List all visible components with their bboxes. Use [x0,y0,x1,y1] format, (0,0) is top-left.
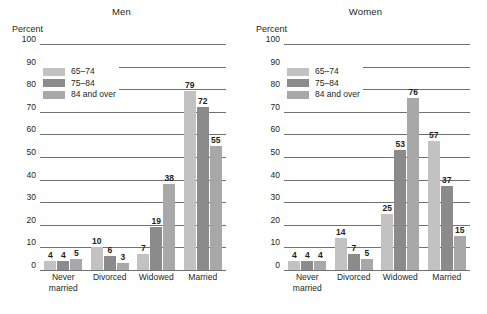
bar: 4 [301,261,313,270]
bar-slot: 76 [407,44,419,270]
legend-swatch [43,91,65,99]
y-tick-label-30: 30 [27,192,36,202]
bar: 14 [335,238,347,270]
y-tick-label-100: 100 [266,34,280,44]
legend-item: 75–84 [287,79,360,88]
legend-swatch [43,79,65,87]
legend: 65–7475–8484 and over [40,66,119,101]
legend-swatch [287,79,309,87]
bar-slot: 55 [210,44,222,270]
y-tick-label-70: 70 [27,102,36,112]
bar: 10 [91,247,103,270]
bar: 72 [197,107,209,270]
legend-item: 75–84 [43,79,116,88]
legend-label: 75–84 [315,79,339,88]
bar: 4 [44,261,56,270]
bar-value-label: 25 [383,204,392,213]
y-tick-label-80: 80 [271,79,280,89]
bar: 25 [381,214,393,271]
bar-slot: 72 [197,44,209,270]
bar-value-label: 19 [152,217,161,226]
bar: 3 [117,263,129,270]
legend-label: 75–84 [71,79,95,88]
bar-slot: 7 [137,44,149,270]
legend: 65–7475–8484 and over [284,66,363,101]
bar-value-label: 5 [74,249,79,258]
y-tick-label-40: 40 [271,170,280,180]
legend-swatch [287,91,309,99]
y-axis-title: Percent [12,24,43,34]
bar-value-label: 3 [120,253,125,262]
bar-value-label: 4 [305,251,310,260]
x-axis-labels: Never marriedDivorcedWidowedMarried [40,272,226,293]
bar-value-label: 76 [409,88,418,97]
bar: 53 [394,150,406,270]
x-tick-label: Widowed [377,272,423,293]
bar-group: 797255 [180,44,227,270]
bar-group: 255376 [377,44,424,270]
panel-title: Women [244,6,487,17]
y-tick-label-50: 50 [271,147,280,157]
bar-group: 573715 [424,44,471,270]
bar-slot: 38 [163,44,175,270]
legend-label: 65–74 [315,67,339,76]
bar-value-label: 6 [107,246,112,255]
bar-slot: 19 [150,44,162,270]
bar: 38 [163,184,175,270]
bar-slot: 57 [428,44,440,270]
bar-value-label: 79 [185,81,194,90]
chart-figure: MenPercent010203040506070809010044510637… [0,0,487,314]
bar-slot: 37 [441,44,453,270]
y-tick-label-10: 10 [27,237,36,247]
chart-panel-men: MenPercent010203040506070809010044510637… [0,0,243,314]
legend-label: 84 and over [315,90,360,99]
bar: 55 [210,146,222,270]
y-tick-label-0: 0 [275,260,280,270]
bar-slot: 79 [184,44,196,270]
bar-value-label: 5 [364,249,369,258]
y-tick-label-80: 80 [27,79,36,89]
x-tick-label: Divorced [331,272,377,293]
bar-value-label: 7 [351,244,356,253]
chart-panel-women: WomenPercent0102030405060708090100444147… [244,0,487,314]
bar: 76 [407,98,419,270]
bar-slot: 53 [394,44,406,270]
bar-value-label: 53 [396,140,405,149]
bar: 57 [428,141,440,270]
gridline-0 [40,270,226,271]
legend-label: 84 and over [71,90,116,99]
bar-slot: 25 [381,44,393,270]
bar: 4 [57,261,69,270]
y-tick-label-20: 20 [271,215,280,225]
bar-value-label: 4 [48,251,53,260]
y-tick-label-60: 60 [271,124,280,134]
gridline-0 [284,270,470,271]
x-tick-label: Married [180,272,226,293]
y-tick-label-0: 0 [31,260,36,270]
bar-value-label: 55 [211,136,220,145]
bar-value-label: 38 [165,174,174,183]
x-axis-labels: Never marriedDivorcedWidowedMarried [284,272,470,293]
bar: 7 [348,254,360,270]
legend-item: 84 and over [287,90,360,99]
y-tick-label-20: 20 [27,215,36,225]
legend-swatch [43,68,65,76]
legend-item: 84 and over [43,90,116,99]
legend-swatch [287,68,309,76]
y-tick-label-40: 40 [27,170,36,180]
bar-value-label: 4 [61,251,66,260]
y-tick-label-90: 90 [27,57,36,67]
panel-title: Men [0,6,243,17]
x-tick-label: Divorced [87,272,133,293]
legend-label: 65–74 [71,67,95,76]
bar-value-label: 72 [198,97,207,106]
y-tick-label-50: 50 [27,147,36,157]
bar-value-label: 57 [429,131,438,140]
x-tick-label: Never married [40,272,86,293]
bar-slot: 15 [454,44,466,270]
legend-item: 65–74 [287,67,360,76]
bar: 4 [314,261,326,270]
y-tick-label-10: 10 [271,237,280,247]
x-tick-label: Widowed [133,272,179,293]
y-tick-label-60: 60 [27,124,36,134]
